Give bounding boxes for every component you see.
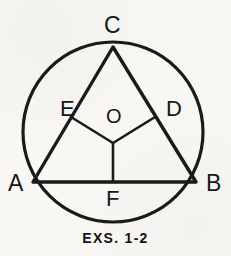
point-label-f: F — [106, 188, 119, 210]
point-label-o: O — [106, 106, 122, 126]
point-label-c: C — [104, 14, 121, 37]
point-label-a: A — [8, 172, 23, 195]
geometry-drawing — [0, 0, 231, 256]
point-label-e: E — [60, 98, 75, 120]
figure-caption: EXS. 1-2 — [0, 230, 231, 246]
point-label-d: D — [166, 98, 182, 120]
figure-container: C E O D A F B EXS. 1-2 — [0, 0, 231, 256]
point-label-b: B — [206, 172, 221, 195]
